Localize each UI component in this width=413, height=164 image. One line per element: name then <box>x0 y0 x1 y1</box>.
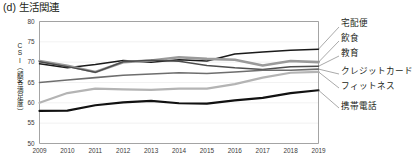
x-tick-label: 2017 <box>256 147 271 154</box>
x-tick-label: 2010 <box>60 147 75 154</box>
x-tick-label: 2014 <box>172 147 187 154</box>
y-tick-label: 55 <box>27 119 35 126</box>
x-axis-ticks: 2009201020112012201320142015201620172018… <box>32 147 326 154</box>
legend-item-keitai-denwa: 携帯電話 <box>341 101 377 111</box>
x-tick-label: 2018 <box>283 147 298 154</box>
y-tick-label: 60 <box>27 99 35 106</box>
y-tick-label: 80 <box>27 18 35 25</box>
y-tick-label: 50 <box>27 140 35 147</box>
legend-item-fitness: フィットネス <box>341 81 395 91</box>
legend-leader-line <box>319 72 340 88</box>
data-series <box>40 49 319 111</box>
y-axis-ticks: 50556065707580 <box>27 18 35 147</box>
y-tick-label: 70 <box>27 58 35 65</box>
legend-leader-lines <box>319 27 340 108</box>
y-tick-label: 75 <box>27 38 35 45</box>
legend-leader-line <box>319 56 340 66</box>
legend-item-credit-card: クレジットカード <box>341 66 413 76</box>
x-tick-label: 2011 <box>88 147 102 154</box>
series-line <box>40 72 319 103</box>
legend-leader-line <box>319 69 340 74</box>
x-tick-label: 2015 <box>200 147 215 154</box>
x-tick-label: 2019 <box>311 147 326 154</box>
y-tick-label: 65 <box>27 79 35 86</box>
legend-leader-line <box>319 90 340 108</box>
x-tick-label: 2016 <box>228 147 243 154</box>
legend-item-inshoku: 飲食 <box>341 33 359 43</box>
x-tick-label: 2009 <box>32 147 47 154</box>
legend-item-kyoiku: 教育 <box>341 48 359 58</box>
x-tick-label: 2012 <box>116 147 131 154</box>
legend-item-takuhaibin: 宅配便 <box>341 18 368 28</box>
series-line <box>40 90 319 111</box>
legend-leader-line <box>319 41 340 62</box>
x-tick-label: 2013 <box>144 147 159 154</box>
legend-leader-line <box>319 27 340 49</box>
